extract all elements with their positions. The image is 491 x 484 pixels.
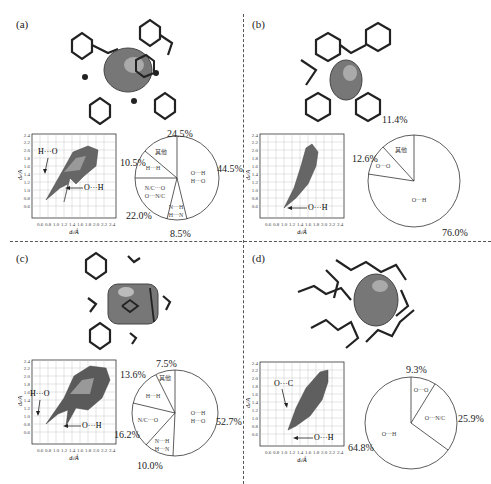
- annotation-h-o: H···O: [38, 147, 58, 156]
- svg-text:0.8: 0.8: [45, 448, 52, 453]
- svg-text:2.4: 2.4: [252, 361, 259, 366]
- svg-text:0.8: 0.8: [273, 450, 280, 455]
- svg-text:1.6: 1.6: [305, 450, 312, 455]
- svg-text:0.6: 0.6: [265, 450, 272, 455]
- svg-text:0.8: 0.8: [45, 222, 52, 227]
- pct-onc: 25.9%: [458, 413, 484, 424]
- panel-label: (d): [252, 252, 265, 264]
- svg-text:1.2: 1.2: [61, 222, 68, 227]
- svg-text:1.0: 1.0: [281, 450, 288, 455]
- svg-text:1.4: 1.4: [69, 448, 76, 453]
- svg-text:0.8: 0.8: [24, 196, 31, 201]
- svg-text:O···H: O···H: [191, 170, 206, 176]
- svg-text:2.0: 2.0: [252, 148, 259, 153]
- svg-text:1.2: 1.2: [24, 406, 31, 411]
- svg-text:其他: 其他: [159, 374, 171, 382]
- svg-text:0.6: 0.6: [24, 430, 31, 435]
- svg-text:1.4: 1.4: [69, 222, 76, 227]
- svg-text:1.2: 1.2: [289, 222, 296, 227]
- svg-text:其他: 其他: [395, 146, 407, 154]
- pct-nh: 8.5%: [170, 228, 191, 239]
- svg-text:0.8: 0.8: [24, 422, 31, 427]
- svg-text:1.8: 1.8: [24, 156, 31, 161]
- svg-text:1.8: 1.8: [252, 156, 259, 161]
- svg-text:1.0: 1.0: [53, 222, 60, 227]
- svg-text:2.4: 2.4: [109, 222, 116, 227]
- svg-text:0.6: 0.6: [252, 204, 259, 209]
- pie-chart: 其他 O···O O···H: [361, 128, 471, 238]
- svg-text:H···H: H···H: [146, 393, 161, 399]
- svg-text:1.6: 1.6: [305, 222, 312, 227]
- svg-text:2.0: 2.0: [93, 448, 100, 453]
- pct-hh: 13.6%: [120, 369, 146, 380]
- svg-text:1.0: 1.0: [53, 448, 60, 453]
- fingerprint-plot: 0.60.81.01.21.41.61.82.02.22.4 0.60.81.0…: [246, 132, 348, 240]
- x-axis-label: di/Å: [297, 456, 307, 463]
- panel-b: (b) 0.60.81.01.21.41.61.82.02.22.4 0.60.…: [246, 0, 491, 240]
- svg-text:0.6: 0.6: [37, 222, 44, 227]
- svg-text:1.6: 1.6: [24, 164, 31, 169]
- molecule-hirshfeld-surface: [296, 250, 426, 360]
- svg-text:1.2: 1.2: [61, 448, 68, 453]
- pct-hh: 10.5%: [120, 157, 146, 168]
- y-axis-label: de/Å: [18, 170, 23, 180]
- svg-text:1.4: 1.4: [24, 398, 31, 403]
- svg-text:1.8: 1.8: [313, 450, 320, 455]
- svg-text:O···O: O···O: [414, 387, 429, 393]
- pct-other: 11.4%: [382, 114, 407, 125]
- svg-text:H···H: H···H: [146, 165, 161, 171]
- svg-text:2.0: 2.0: [93, 222, 100, 227]
- fingerprint-plot: 0.60.81.01.21.41.61.82.02.22.4 0.60.81.0…: [18, 132, 120, 240]
- svg-text:0.6: 0.6: [24, 204, 31, 209]
- y-axis-label: de/Å: [246, 398, 251, 408]
- svg-text:1.0: 1.0: [252, 416, 259, 421]
- pct-other: 24.5%: [167, 128, 193, 139]
- svg-text:1.8: 1.8: [252, 384, 259, 389]
- svg-text:1.2: 1.2: [252, 408, 259, 413]
- svg-text:2.2: 2.2: [329, 222, 336, 227]
- svg-text:1.6: 1.6: [252, 164, 259, 169]
- svg-text:1.2: 1.2: [252, 180, 259, 185]
- svg-text:2.0: 2.0: [321, 222, 328, 227]
- svg-text:0.6: 0.6: [252, 432, 259, 437]
- svg-text:2.0: 2.0: [321, 450, 328, 455]
- svg-text:1.4: 1.4: [252, 400, 259, 405]
- svg-text:1.2: 1.2: [24, 180, 31, 185]
- svg-text:2.0: 2.0: [24, 374, 31, 379]
- svg-text:N/C···O: N/C···O: [145, 185, 166, 191]
- svg-text:O···N/C: O···N/C: [145, 193, 165, 199]
- svg-text:1.2: 1.2: [289, 450, 296, 455]
- svg-text:2.2: 2.2: [252, 140, 259, 145]
- svg-text:H···O: H···O: [191, 418, 206, 424]
- svg-text:1.8: 1.8: [85, 222, 92, 227]
- x-axis-label: di/Å: [297, 228, 307, 235]
- svg-text:H···O: H···O: [191, 178, 206, 184]
- fingerprint-plot: 0.60.81.01.21.41.61.82.02.22.4 0.60.81.0…: [246, 360, 348, 468]
- svg-text:1.8: 1.8: [85, 448, 92, 453]
- y-axis-label: de/Å: [246, 170, 251, 180]
- panel-label: (a): [16, 18, 28, 30]
- svg-text:1.6: 1.6: [252, 392, 259, 397]
- svg-text:H···N: H···N: [169, 212, 184, 218]
- svg-text:O···O: O···O: [376, 163, 391, 169]
- pct-nco: 16.2%: [114, 429, 140, 440]
- svg-text:2.2: 2.2: [329, 450, 336, 455]
- y-axis-label: de/Å: [18, 396, 23, 406]
- pct-oh: 64.8%: [348, 442, 374, 453]
- svg-text:N···H: N···H: [155, 438, 170, 444]
- svg-text:O···H: O···H: [412, 197, 427, 203]
- svg-text:O···H: O···H: [382, 431, 397, 437]
- svg-text:H···N: H···N: [155, 446, 170, 452]
- annotation-o-c: O···C: [274, 379, 293, 388]
- svg-text:2.2: 2.2: [24, 366, 31, 371]
- annotation-o-h: O···H: [308, 203, 328, 212]
- svg-text:1.4: 1.4: [252, 172, 259, 177]
- molecule-hirshfeld-surface: [78, 248, 178, 356]
- x-axis-label: di/Å: [69, 454, 79, 461]
- pct-oo: 12.6%: [352, 153, 378, 164]
- annotation-o-h: O···H: [314, 433, 334, 442]
- annotation-h-o: H···O: [30, 389, 50, 398]
- pct-other: 7.5%: [156, 358, 177, 369]
- annotation-o-h: O···H: [84, 183, 104, 192]
- svg-text:N/C···O: N/C···O: [138, 417, 159, 423]
